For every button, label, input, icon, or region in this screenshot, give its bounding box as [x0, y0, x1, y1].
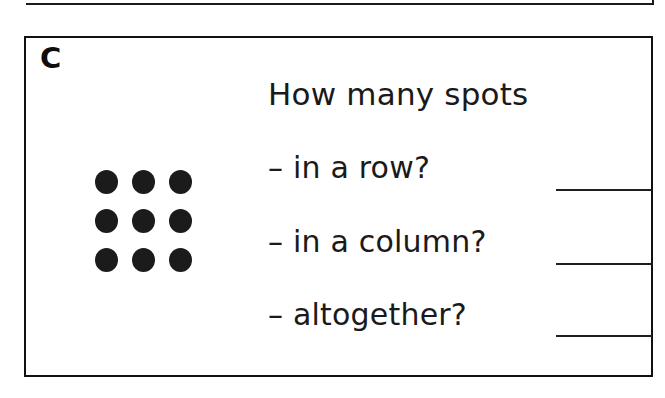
spot-cell — [132, 248, 169, 287]
part-letter: C — [40, 44, 61, 73]
previous-exercise-box-edge — [26, 3, 652, 5]
spot-dot — [169, 209, 192, 233]
spot-cell — [95, 248, 132, 287]
spot-dot — [132, 170, 155, 194]
spot-dot — [132, 248, 155, 272]
answer-blank-in-a-column[interactable] — [556, 263, 653, 265]
question-row-altogether: – altogether? — [268, 297, 653, 337]
question-row-in-a-row: – in a row? — [268, 150, 653, 190]
spot-cell — [95, 209, 132, 248]
spot-cell — [169, 170, 206, 209]
question-label: – in a row? — [268, 150, 430, 185]
question-row-in-a-column: – in a column? — [268, 224, 653, 264]
exercise-heading: How many spots — [268, 76, 528, 112]
spot-array — [95, 170, 205, 287]
spot-cell — [169, 248, 206, 287]
spot-cell — [132, 209, 169, 248]
spot-dot — [169, 170, 192, 194]
answer-blank-altogether[interactable] — [556, 335, 652, 337]
spot-dot — [95, 209, 118, 233]
question-label: – in a column? — [268, 224, 487, 259]
spot-dot — [132, 209, 155, 233]
spot-dot — [95, 248, 118, 272]
answer-blank-in-a-row[interactable] — [556, 189, 652, 191]
question-label: – altogether? — [268, 297, 467, 332]
spot-cell — [95, 170, 132, 209]
exercise-box-c: C How many spots – in a row? – in a colu… — [24, 36, 653, 377]
worksheet-page: C How many spots – in a row? – in a colu… — [0, 0, 665, 398]
spot-dot — [169, 248, 192, 272]
spot-dot — [95, 170, 118, 194]
spot-cell — [132, 170, 169, 209]
spot-cell — [169, 209, 206, 248]
